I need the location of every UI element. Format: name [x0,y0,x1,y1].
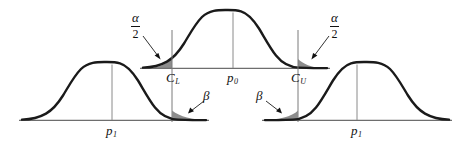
null-distribution-curve [143,10,327,68]
alpha-over-2-left-label: α 2 [131,11,140,40]
c-lower-subscript: L [175,77,179,86]
alpha-right-leader [311,36,329,60]
alpha-over-2-right-label: α 2 [330,11,339,40]
beta-right-leader [266,101,282,114]
c-upper-label: CU [291,71,305,84]
p-null-label: p0 [227,71,238,84]
statistics-figure: α 2 α 2 CL p0 CU β β p1 p1 [0,0,467,148]
beta-right-label: β [256,89,262,102]
p-null-subscript: 0 [234,77,238,86]
c-upper-subscript: U [300,77,306,86]
beta-left-leader [188,101,204,114]
p-alt-right-subscript: 1 [358,130,362,139]
p-alt-right-base: p [351,123,358,138]
c-lower-label: CL [166,71,179,84]
p-null-base: p [227,70,234,85]
alpha-right-denominator: 2 [330,28,339,41]
c-upper-base: C [291,70,300,85]
null-distribution-group [140,10,330,122]
alpha-left-numerator: α [131,11,140,25]
alpha-left-denominator: 2 [131,28,140,41]
p-alt-left-base: p [106,123,113,138]
alternative-left-group [19,62,209,120]
beta-left-label: β [203,89,209,102]
p-alt-right-label: p1 [351,124,362,137]
alpha-left-leader [143,36,161,60]
alpha-right-numerator: α [330,11,339,25]
p-alt-left-label: p1 [106,124,117,137]
c-lower-base: C [166,70,175,85]
p-alt-left-subscript: 1 [113,130,117,139]
